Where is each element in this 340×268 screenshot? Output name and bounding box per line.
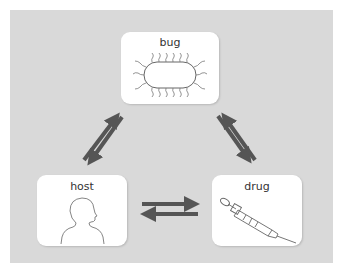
node-label-host: host bbox=[37, 180, 127, 193]
node-label-bug: bug bbox=[121, 36, 219, 49]
bacterium-icon bbox=[130, 50, 210, 100]
human-head-icon bbox=[57, 195, 109, 245]
syringe-icon bbox=[216, 193, 300, 245]
node-bug: bug bbox=[121, 32, 219, 104]
node-drug: drug bbox=[212, 175, 302, 246]
node-host: host bbox=[37, 175, 127, 246]
node-label-drug: drug bbox=[212, 180, 302, 193]
